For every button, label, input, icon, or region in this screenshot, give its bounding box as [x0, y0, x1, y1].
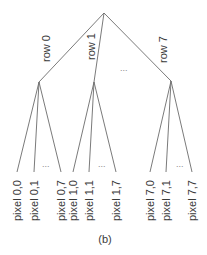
rows-ellipsis: ... — [120, 63, 128, 73]
edge-row0-pixel00 — [17, 82, 39, 172]
edge-row7-pixel71 — [166, 81, 171, 172]
row-7-pixel-ellipsis: ... — [176, 159, 184, 169]
pixel-0-0-label: pixel 0,0 — [11, 180, 23, 221]
subtree-row-7: ... pixel 7,0 pixel 7,1 pixel 7,7 — [144, 81, 198, 221]
pixel-1-0-label: pixel 1,0 — [67, 180, 79, 221]
subtree-row-0: ... pixel 0,0 pixel 0,1 pixel 0,7 — [11, 82, 67, 221]
edge-row1-pixel11 — [89, 82, 94, 172]
row-1-pixel-ellipsis: ... — [98, 159, 106, 169]
edge-row7-pixel70 — [150, 81, 171, 172]
row-0-label: row 0 — [40, 35, 52, 62]
pixel-1-1-label: pixel 1,1 — [83, 180, 95, 221]
edge-row1-pixel10 — [73, 82, 94, 172]
subtree-row-1: ... pixel 1,0 pixel 1,1 pixel 1,7 — [67, 82, 122, 221]
root-edges — [39, 13, 171, 82]
row-7-label: row 7 — [157, 36, 169, 63]
pixel-1-7-label: pixel 1,7 — [110, 180, 122, 221]
row-0-pixel-ellipsis: ... — [42, 159, 50, 169]
pixel-7-1-label: pixel 7,1 — [160, 180, 172, 221]
pixel-0-7-label: pixel 0,7 — [55, 180, 67, 221]
tree-svg: row 0 row 1 row 7 ... ... pixel 0,0 pixe… — [0, 0, 207, 255]
row-1-label: row 1 — [85, 33, 97, 60]
pixel-7-7-label: pixel 7,7 — [186, 180, 198, 221]
figure-caption: (b) — [98, 233, 111, 245]
tree-diagram: row 0 row 1 row 7 ... ... pixel 0,0 pixe… — [0, 0, 207, 255]
pixel-0-1-label: pixel 0,1 — [28, 180, 40, 221]
edge-row0-pixel01 — [34, 82, 39, 172]
pixel-7-0-label: pixel 7,0 — [144, 180, 156, 221]
